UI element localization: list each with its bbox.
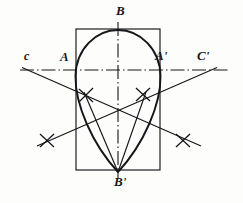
point-label-c: c xyxy=(24,50,29,62)
point-label-a: A xyxy=(60,50,69,63)
figure-canvas: B c A A' C' B' xyxy=(0,0,243,203)
radius-line-left xyxy=(84,92,118,172)
point-label-a-prime: A' xyxy=(155,49,167,62)
geometric-construction-drawing xyxy=(0,0,243,203)
point-label-c-prime: C' xyxy=(197,49,209,62)
point-label-b: B xyxy=(116,4,125,17)
diagonal-from-c xyxy=(22,68,201,147)
tick-mark-upper-left xyxy=(79,88,93,102)
point-label-b-prime: B' xyxy=(114,175,126,188)
tick-mark-lower-left xyxy=(40,134,54,147)
